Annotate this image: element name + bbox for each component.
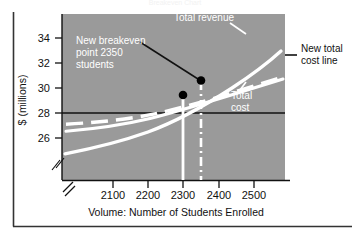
y-axis-tick-labels: 34 32 30 28 26 bbox=[38, 32, 50, 144]
clipped-top-caption: Breakeven Chart bbox=[149, 0, 202, 6]
y-tick-label-34: 34 bbox=[38, 32, 50, 44]
breakeven-chart-figure: Breakeven Chart 34 32 30 28 26 $ (millio… bbox=[0, 0, 360, 238]
total-cost-annotation: Total cost bbox=[231, 90, 252, 113]
x-axis-tick-labels: 2100 2200 2300 2400 2500 bbox=[101, 189, 266, 201]
new-breakeven-annotation-line-2: point 2350 bbox=[76, 47, 123, 58]
chart-canvas: Breakeven Chart 34 32 30 28 26 $ (millio… bbox=[0, 0, 360, 238]
new-breakeven-annotation-line-3: students bbox=[76, 59, 114, 70]
y-tick-label-32: 32 bbox=[38, 57, 50, 69]
y-axis-title: $ (millions) bbox=[16, 75, 28, 126]
x-tick-label-2400: 2400 bbox=[207, 189, 231, 201]
x-tick-label-2300: 2300 bbox=[171, 189, 195, 201]
x-tick-label-2100: 2100 bbox=[101, 189, 125, 201]
x-axis-title: Volume: Number of Students Enrolled bbox=[88, 206, 264, 218]
y-tick-label-30: 30 bbox=[38, 82, 50, 94]
x-axis-break-icon bbox=[63, 182, 75, 196]
total-cost-annotation-line-1: Total bbox=[231, 90, 252, 101]
total-revenue-annotation: Total revenue bbox=[174, 12, 234, 23]
total-cost-annotation-line-2: cost bbox=[231, 102, 250, 113]
y-tick-label-28: 28 bbox=[38, 107, 50, 119]
new-breakeven-point-marker bbox=[197, 76, 206, 85]
new-breakeven-annotation-line-1: New breakeven bbox=[76, 35, 145, 46]
new-total-cost-line-annotation-line-2: cost line bbox=[301, 55, 338, 66]
x-tick-label-2200: 2200 bbox=[136, 189, 160, 201]
x-tick-label-2500: 2500 bbox=[242, 189, 266, 201]
new-total-cost-line-annotation: New total cost line bbox=[301, 43, 343, 66]
y-tick-label-26: 26 bbox=[38, 132, 50, 144]
y-axis-ticks bbox=[55, 38, 62, 138]
new-total-cost-line-annotation-line-1: New total bbox=[301, 43, 343, 54]
old-breakeven-point-marker bbox=[179, 91, 188, 100]
